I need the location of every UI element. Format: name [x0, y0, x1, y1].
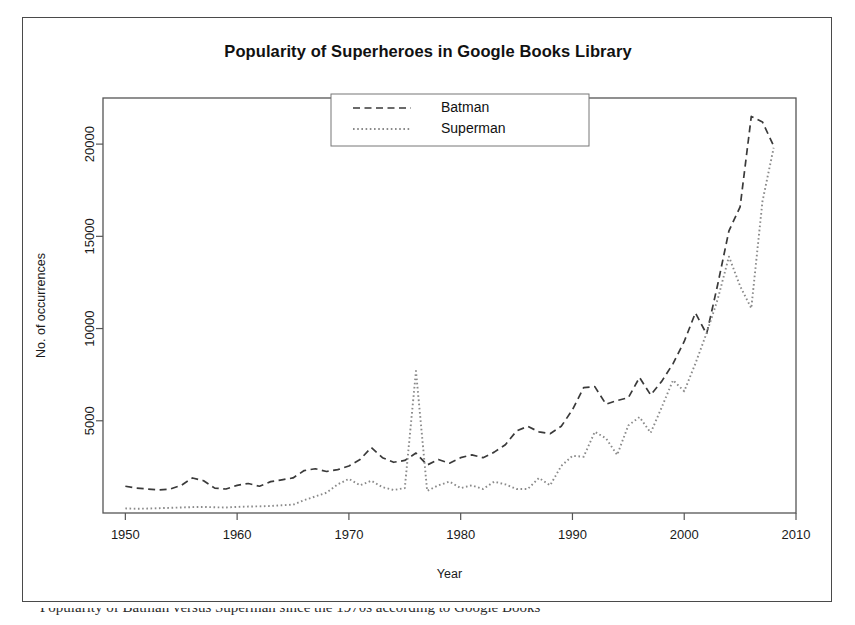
x-axis-title: Year: [437, 567, 462, 581]
x-tick-label: 1970: [334, 527, 363, 542]
chart-canvas: 1950196019701980199020002010500010000150…: [23, 18, 833, 603]
legend-label-batman: Batman: [441, 99, 489, 115]
x-tick-label: 1960: [223, 527, 252, 542]
y-tick-label: 15000: [82, 218, 97, 254]
figure-caption-text: Popularity of Batman versus Superman sin…: [40, 608, 830, 616]
y-axis-title: No. of occurrences: [34, 253, 48, 358]
legend-label-superman: Superman: [441, 120, 506, 136]
series-line-batman: [125, 116, 773, 490]
y-tick-label: 20000: [82, 126, 97, 162]
x-tick-label: 1990: [558, 527, 587, 542]
x-tick-label: 1980: [446, 527, 475, 542]
figure-frame: Popularity of Superheroes in Google Book…: [22, 17, 832, 602]
x-tick-label: 1950: [111, 527, 140, 542]
series-line-superman: [125, 148, 773, 509]
plot-area-border: [103, 98, 796, 513]
y-tick-label: 10000: [82, 310, 97, 346]
figure-caption: Popularity of Batman versus Superman sin…: [40, 608, 830, 625]
y-tick-label: 5000: [82, 406, 97, 435]
x-tick-label: 2010: [782, 527, 811, 542]
x-tick-label: 2000: [670, 527, 699, 542]
